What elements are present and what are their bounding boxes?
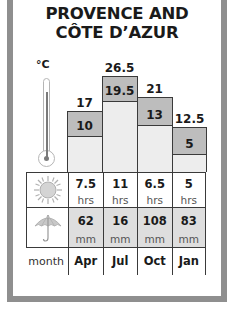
sun-icon	[26, 173, 68, 207]
month-cell-jan: Jan	[172, 248, 207, 275]
sunshine-cell-jul: 11hrs	[103, 173, 138, 207]
frame-border-bottom	[7, 296, 227, 302]
frame-border-right	[221, 0, 227, 302]
rainfall-cell-jul: 16mm	[103, 208, 138, 247]
sunshine-cell-oct: 6.5hrs	[137, 173, 172, 207]
max-temp-label-oct: 21	[137, 82, 172, 96]
rainfall-cell-apr: 62mm	[68, 208, 103, 247]
min-temp-label-oct: 13	[137, 108, 172, 122]
month-cell-jul: Jul	[103, 248, 138, 275]
sunshine-cell-apr: 7.5hrs	[68, 173, 103, 207]
min-temp-label-apr: 10	[67, 119, 102, 133]
title-line-2: CÔTE D’AZUR	[13, 23, 221, 42]
rainfall-cell-jan: 83mm	[172, 208, 207, 247]
chart-title: PROVENCE AND CÔTE D’AZUR	[13, 4, 221, 42]
min-temp-label-jul: 19.5	[102, 84, 137, 98]
month-row-label: month	[26, 248, 68, 275]
month-row: month Apr Jul Oct Jan	[26, 248, 206, 275]
title-line-1: PROVENCE AND	[13, 4, 221, 23]
min-temp-label-jan: 5	[172, 137, 207, 151]
max-temp-label-jan: 12.5	[172, 112, 207, 126]
umbrella-icon	[26, 208, 68, 247]
sunshine-cell-jan: 5hrs	[172, 173, 207, 207]
sunshine-row: 7.5hrs 11hrs 6.5hrs 5hrs	[26, 172, 206, 207]
rainfall-cell-oct: 108mm	[137, 208, 172, 247]
rainfall-row: 62mm 16mm 108mm 83mm	[26, 207, 206, 248]
temperature-unit-label: °C	[36, 58, 50, 71]
frame-border-left	[7, 0, 13, 302]
max-temp-label-jul: 26.5	[102, 61, 137, 75]
max-temp-label-apr: 17	[67, 96, 102, 110]
month-cell-oct: Oct	[137, 248, 172, 275]
month-cell-apr: Apr	[68, 248, 103, 275]
